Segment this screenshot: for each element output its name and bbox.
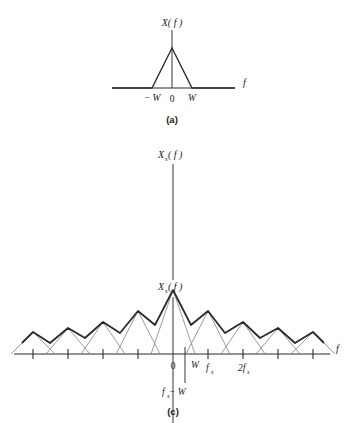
figure-root: X( f ) f − W 0 W (a) X s ( f ) <box>0 0 353 423</box>
panel-a: X( f ) f − W 0 W (a) <box>0 0 353 140</box>
panel-c-tick-label-fs-sub: s <box>211 368 214 375</box>
panel-a-tick-label-minus-w: − W <box>144 93 162 103</box>
panel-c-tick-label-2fs: 2f <box>238 363 247 373</box>
panel-c-label-fs-minus-w: f <box>162 387 166 397</box>
panel-a-axis-label: f <box>243 77 247 88</box>
panel-c-axis-label: f <box>336 343 340 354</box>
panel-a-tag: (a) <box>166 114 178 125</box>
panel-a-tick-label-w: W <box>188 93 197 103</box>
panel-c: X s ( f ) <box>0 275 353 423</box>
panel-c-spectrum-label-group: X s ( f ) <box>157 281 183 294</box>
panel-c-label-fs-minus-w-group: f s − W <box>162 387 187 399</box>
panel-c-spectrum-label: X <box>157 281 165 292</box>
panel-c-label-fs-minus-w-tail: − W <box>169 387 187 397</box>
panel-b-spectrum-label-tail: ( f ) <box>168 149 183 161</box>
panel-a-tick-label-zero: 0 <box>170 94 175 104</box>
panel-c-tick-label-2fs-group: 2f s <box>238 363 250 375</box>
panel-b-spectrum-label: X <box>157 149 165 160</box>
panel-c-tag: (c) <box>167 406 179 417</box>
panel-a-triangle-spectrum <box>112 48 235 88</box>
panel-c-spectrum-label-tail: ( f ) <box>168 281 183 293</box>
panel-c-tick-label-w: W <box>191 360 200 370</box>
panel-c-tick-label-zero: 0 <box>171 361 176 371</box>
panel-c-tick-label-fs: f <box>206 363 210 373</box>
panel-a-spectrum-label: X( f ) <box>161 17 183 29</box>
panel-b: X s ( f ) Guard band 0 W <box>0 140 353 280</box>
panel-c-tick-label-fs-group: f s <box>206 363 214 375</box>
panel-c-tick-label-2fs-sub: s <box>247 368 250 375</box>
panel-b-spectrum-label-group: X s ( f ) <box>157 149 183 162</box>
